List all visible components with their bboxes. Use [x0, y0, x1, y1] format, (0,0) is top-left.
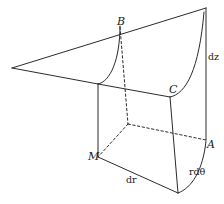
dashed-edge-B-vertical: [120, 27, 128, 124]
dashed-edge-hidden-to-right: [128, 124, 206, 140]
curve-top-B-arc: [98, 26, 120, 84]
vertex-label-M: M: [88, 151, 99, 162]
figure-container: B C A M dz dr rdθ: [0, 0, 224, 204]
edge-apex-to-top-front-left: [12, 68, 98, 84]
vertex-label-C: C: [169, 84, 177, 95]
dimension-label-dz: dz: [208, 52, 219, 62]
edge-front-vertical: [170, 97, 178, 193]
dashed-edge-hidden-to-bottom-left: [98, 124, 128, 157]
vertex-label-B: B: [117, 16, 125, 27]
edge-bottom-left-to-bottom-front: [98, 157, 178, 193]
vertex-label-A: A: [207, 139, 215, 150]
dimension-label-dr: dr: [126, 175, 137, 185]
dimension-label-rdtheta: rdθ: [189, 167, 205, 177]
edge-top-front-left-to-top-front-right: [98, 84, 170, 97]
edge-apex-to-top-back-right: [12, 8, 206, 68]
